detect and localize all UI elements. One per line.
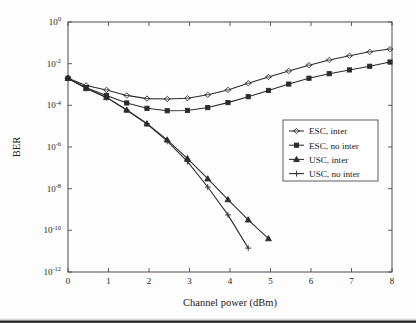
x-tick-label: 3 bbox=[187, 276, 192, 286]
y-tick-label: 10-10 bbox=[43, 224, 61, 236]
legend-item-label: USC, no inter bbox=[309, 169, 360, 179]
x-tick-label: 5 bbox=[268, 276, 273, 286]
x-axis-title: Channel power (dBm) bbox=[183, 297, 277, 309]
x-tick-label: 7 bbox=[349, 276, 354, 286]
x-tick-label: 1 bbox=[106, 276, 111, 286]
series-line bbox=[68, 78, 268, 238]
chart-canvas: 012345678 10010-210-410-610-810-1010-12 … bbox=[0, 0, 416, 323]
y-tick-labels: 10010-210-410-610-810-1010-12 bbox=[43, 15, 61, 277]
x-tick-label: 8 bbox=[390, 276, 395, 286]
legend-item-label: ESC, no inter bbox=[309, 141, 359, 151]
x-tick-label: 6 bbox=[309, 276, 314, 286]
ber-vs-channel-power-figure: 012345678 10010-210-410-610-810-1010-12 … bbox=[0, 0, 416, 323]
legend-item-label: ESC, inter bbox=[309, 126, 347, 136]
y-axis-title: BER bbox=[11, 137, 22, 157]
y-tick-label: 10-12 bbox=[43, 265, 61, 277]
legend: ESC, interESC, no interUSC, interUSC, no… bbox=[283, 120, 378, 181]
y-tick-label: 10-4 bbox=[47, 99, 62, 111]
y-tick-label: 10-2 bbox=[47, 57, 61, 69]
legend-item-label: USC, inter bbox=[309, 155, 348, 165]
x-tick-label: 2 bbox=[147, 276, 152, 286]
y-tick-label: 100 bbox=[49, 15, 61, 27]
y-tick-label: 10-6 bbox=[47, 140, 61, 152]
series-line bbox=[68, 78, 248, 248]
x-tick-label: 4 bbox=[228, 276, 233, 286]
page-edge-artifact bbox=[0, 318, 416, 323]
x-tick-labels: 012345678 bbox=[66, 276, 395, 286]
x-tick-label: 0 bbox=[66, 276, 71, 286]
y-tick-label: 10-8 bbox=[47, 182, 61, 194]
